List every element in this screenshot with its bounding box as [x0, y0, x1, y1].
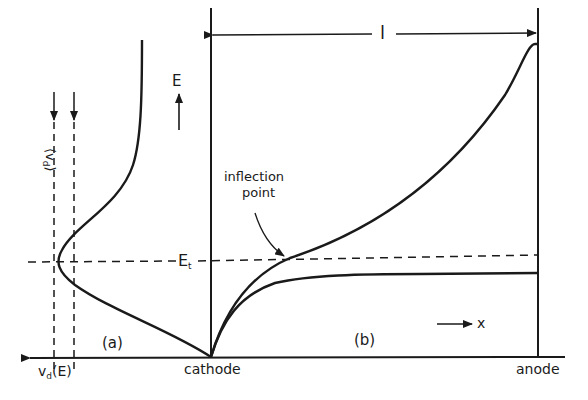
anode-label: anode	[516, 362, 560, 376]
threshold-field-dashed-right	[198, 255, 538, 261]
field-profile-upper-curve	[211, 44, 538, 357]
cathode-label: cathode	[184, 362, 241, 376]
length-arrow-left	[213, 34, 372, 35]
field-axis-label: E	[172, 74, 181, 89]
velocity-axis-label: vd(E)	[38, 364, 72, 381]
velocity-axis-baseline	[30, 357, 565, 358]
diagram-canvas	[0, 0, 588, 400]
avg-velocity-symbol: ⟨v	[43, 148, 58, 161]
inflection-pointer	[255, 213, 284, 256]
velocity-axis-argument: (E)	[52, 363, 72, 379]
avg-velocity-label: ⟨vd⟩	[41, 148, 57, 172]
threshold-field-subscript: t	[188, 261, 192, 271]
panel-b-label: (b)	[354, 333, 375, 348]
avg-velocity-bracket: ⟩	[43, 166, 58, 171]
threshold-field-label: Et	[178, 253, 192, 271]
panel-a-label: (a)	[102, 336, 123, 351]
length-arrow-right	[396, 33, 536, 34]
inflection-label-line1: inflection	[224, 170, 284, 183]
threshold-field-symbol: E	[178, 251, 188, 270]
position-axis-label: x	[477, 316, 485, 330]
length-label: l	[380, 24, 385, 42]
drift-velocity-curve	[58, 40, 211, 357]
threshold-field-dashed-left	[28, 261, 178, 262]
inflection-label-line2: point	[242, 186, 275, 199]
